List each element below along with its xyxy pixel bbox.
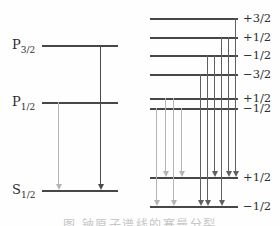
right-sublevel-label-P1/2-−1/2: −1/2 (243, 103, 271, 115)
right-transition-arrowhead (163, 171, 169, 177)
right-sublevel-line-P3/2-−3/2 (150, 74, 238, 76)
right-sublevel-line-S1/2-−1/2 (150, 206, 238, 208)
right-transition-arrow-line (173, 98, 174, 201)
left-level-line-S1/2 (42, 190, 118, 192)
right-sublevel-line-P3/2-+3/2 (150, 18, 238, 20)
diagram-stage: P3/2P1/2S1/2+3/2+1/2−1/2−3/2+1/2−1/2+1/2… (0, 0, 280, 226)
term-symbol: P (12, 94, 21, 109)
right-sublevel-line-P3/2-+1/2 (150, 37, 238, 39)
right-transition-arrow-line (235, 18, 236, 172)
right-sublevel-label-P3/2-−1/2: −1/2 (243, 50, 271, 62)
left-transition-arrow-line (100, 45, 101, 185)
left-level-label-P3/2: P3/2 (12, 38, 35, 51)
left-transition-arrowhead (98, 184, 104, 190)
right-transition-arrow-line (165, 98, 166, 172)
right-transition-arrow-line (221, 37, 222, 201)
right-transition-arrow-line (207, 55, 208, 201)
left-transition-arrow-line (58, 102, 59, 185)
right-transition-arrow-line (181, 108, 182, 172)
right-transition-arrowhead (233, 171, 239, 177)
right-transition-arrowhead (212, 171, 218, 177)
right-transition-arrow-line (214, 55, 215, 172)
right-sublevel-label-S1/2-+1/2: +1/2 (243, 172, 271, 184)
right-transition-arrowhead (198, 200, 204, 206)
left-level-label-P1/2: P1/2 (12, 95, 35, 108)
zeeman-energy-level-figure: P3/2P1/2S1/2+3/2+1/2−1/2−3/2+1/2−1/2+1/2… (0, 0, 280, 226)
right-sublevel-label-P3/2-+3/2: +3/2 (243, 13, 271, 25)
right-sublevel-line-P3/2-−1/2 (150, 55, 238, 57)
right-transition-arrowhead (171, 200, 177, 206)
right-sublevel-line-S1/2-+1/2 (150, 177, 238, 179)
left-transition-arrowhead (56, 184, 62, 190)
right-sublevel-label-S1/2-−1/2: −1/2 (243, 201, 271, 213)
term-symbol: P (12, 37, 21, 52)
term-symbol: S (12, 182, 21, 197)
figure-caption: 图 钠原子谱线的塞曼分裂 (0, 215, 280, 226)
term-subscript: 1/2 (21, 190, 35, 200)
right-transition-arrow-line (156, 108, 157, 201)
right-transition-arrowhead (179, 171, 185, 177)
right-sublevel-label-P3/2-−3/2: −3/2 (243, 69, 271, 81)
right-transition-arrowhead (219, 200, 225, 206)
right-transition-arrowhead (154, 200, 160, 206)
term-subscript: 1/2 (21, 102, 35, 112)
right-transition-arrowhead (226, 171, 232, 177)
left-level-label-S1/2: S1/2 (12, 183, 35, 196)
left-level-line-P3/2 (42, 45, 118, 47)
right-sublevel-line-P1/2-+1/2 (150, 98, 238, 100)
left-level-line-P1/2 (42, 102, 118, 104)
right-transition-arrowhead (205, 200, 211, 206)
right-transition-arrow-line (228, 37, 229, 172)
right-sublevel-label-P3/2-+1/2: +1/2 (243, 32, 271, 44)
term-subscript: 3/2 (21, 45, 35, 55)
right-sublevel-line-P1/2-−1/2 (150, 108, 238, 110)
right-transition-arrow-line (200, 74, 201, 201)
